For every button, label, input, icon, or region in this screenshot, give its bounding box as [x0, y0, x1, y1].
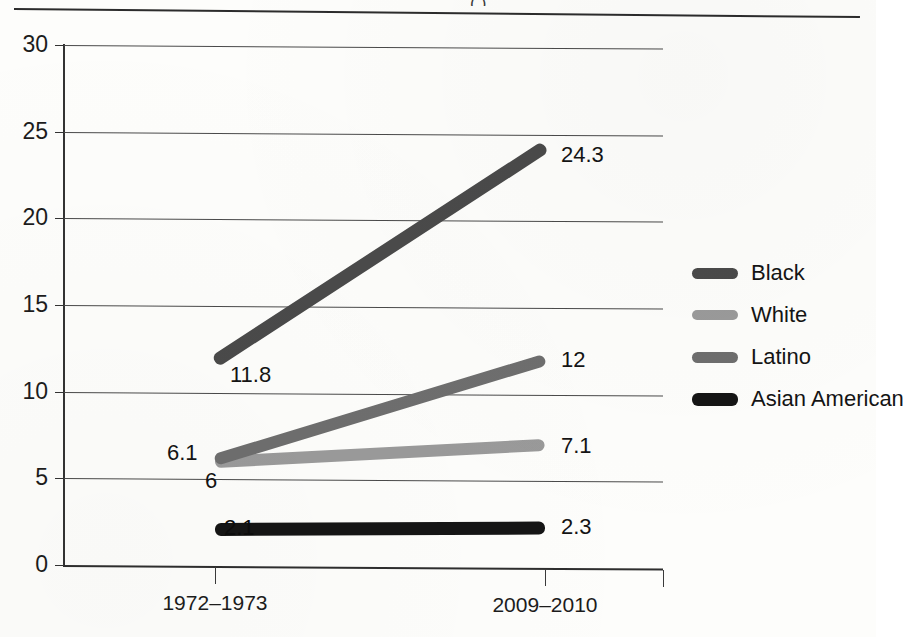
legend-swatch-icon [692, 310, 738, 320]
legend-swatch-icon [692, 352, 738, 363]
gridline-30 [63, 45, 663, 50]
data-label: 12 [561, 347, 585, 373]
cropped-title-fragment: ( ) [470, 0, 690, 6]
y-axis-tick-label: 15 [0, 291, 48, 318]
legend-item-black[interactable]: Black [692, 252, 876, 294]
y-axis-tick-label: 20 [0, 204, 48, 231]
series-line-asian-american [215, 522, 545, 536]
y-axis-tick-label: 10 [0, 378, 48, 405]
x-tick-1 [545, 569, 546, 586]
y-tick-20 [55, 218, 64, 219]
y-tick-30 [55, 45, 64, 46]
legend-item-white[interactable]: White [692, 294, 876, 336]
legend-item-asian-american[interactable]: Asian American [692, 378, 876, 420]
gridline-15 [63, 305, 663, 310]
gridline-5 [63, 478, 663, 483]
x-axis-tick-label: 2009–2010 [492, 593, 597, 617]
y-tick-5 [55, 478, 64, 479]
legend-item-label: Black [751, 260, 805, 286]
y-axis-tick-label: 0 [0, 551, 48, 578]
y-axis-tick-label: 5 [0, 464, 48, 491]
data-label: 2.1 [224, 515, 255, 541]
y-axis-tick-label: 30 [0, 31, 48, 58]
data-label: 24.3 [561, 142, 604, 168]
header-divider-rule [14, 8, 860, 18]
y-tick-0 [55, 565, 64, 566]
gridline-20 [63, 218, 663, 223]
y-tick-10 [55, 392, 64, 393]
data-label: 11.8 [230, 362, 271, 388]
x-tick-0 [215, 567, 216, 584]
y-axis-tick-label: 25 [0, 118, 48, 145]
legend-item-label: Asian American [751, 386, 904, 412]
series-line-black [211, 141, 548, 367]
data-label: 6.1 [167, 440, 198, 466]
y-tick-25 [55, 132, 64, 133]
legend-swatch-icon [692, 393, 738, 406]
legend-swatch-icon [692, 268, 738, 279]
gridline-10 [63, 392, 663, 397]
data-label: 6 [205, 468, 217, 494]
x-axis-end-cap [663, 570, 664, 587]
legend-item-label: Latino [751, 344, 811, 370]
data-label: 7.1 [561, 433, 592, 459]
gridline-25 [63, 132, 663, 137]
data-label: 2.3 [561, 514, 592, 540]
gridline-0 [63, 565, 663, 571]
y-tick-15 [55, 305, 64, 306]
chart-legend: BlackWhiteLatinoAsian American [692, 252, 876, 420]
x-axis-tick-label: 1972–1973 [162, 591, 267, 615]
legend-item-latino[interactable]: Latino [692, 336, 876, 378]
legend-item-label: White [751, 302, 807, 328]
